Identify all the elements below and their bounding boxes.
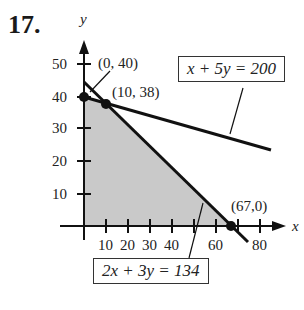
x-tick-30: 30 [142,237,157,253]
point-label-10-38: (10, 38) [112,84,160,101]
equation-2-text: 2x + 3y = 134 [102,261,200,280]
y-tick-30: 30 [52,120,67,136]
equation-1-text: x + 5y = 200 [187,59,276,78]
y-axis-arrow-icon [79,40,89,54]
x-axis-arrow-icon [272,221,286,231]
equation-box-1: x + 5y = 200 [178,56,285,82]
y-axis-label: y [78,11,87,27]
point-10-38 [101,99,111,109]
x-axis-label: x [291,218,299,234]
y-tick-50: 50 [52,56,67,72]
point-0-40 [79,92,89,102]
x-tick-20: 20 [120,237,135,253]
x-tick-80: 80 [252,237,267,253]
x-tick-10: 10 [98,237,113,253]
leader-pt1 [90,71,110,92]
point-label-67-0: (67,0) [231,198,267,215]
point-label-0-40: (0, 40) [98,55,138,72]
x-tick-40: 40 [164,237,179,253]
y-tick-40: 40 [52,89,67,105]
y-tick-20: 20 [52,153,67,169]
leader-eq1 [230,88,243,134]
equation-box-2: 2x + 3y = 134 [93,258,209,284]
point-67-0 [226,221,236,231]
y-tick-10: 10 [52,186,67,202]
x-tick-60: 60 [208,237,223,253]
